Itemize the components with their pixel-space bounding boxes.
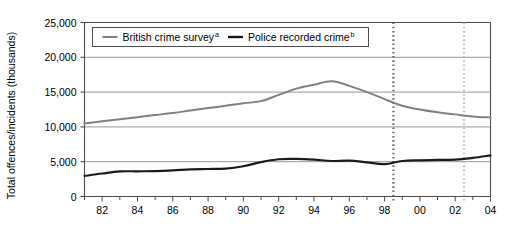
x-tick-label: 04 bbox=[485, 204, 497, 216]
x-tick-label: 88 bbox=[202, 204, 214, 216]
legend-footnote-2: b bbox=[351, 31, 355, 38]
legend-footnote-1: a bbox=[215, 31, 219, 38]
x-tick-label: 02 bbox=[449, 204, 461, 216]
y-tick-label: 0 bbox=[71, 191, 77, 203]
y-axis-title: Total offences/incidents (thousands) bbox=[5, 32, 17, 199]
series-line-1 bbox=[85, 81, 491, 123]
x-tick-label: 94 bbox=[308, 204, 320, 216]
y-tick-label: 10,000 bbox=[44, 121, 76, 133]
y-tick-label: 20,000 bbox=[44, 51, 76, 63]
x-tick-label: 82 bbox=[96, 204, 108, 216]
legend-label-1: British crime survey bbox=[123, 31, 215, 43]
x-tick-label: 92 bbox=[273, 204, 285, 216]
x-tick-label: 96 bbox=[343, 204, 355, 216]
y-tick-label: 25,000 bbox=[44, 17, 76, 29]
series-line-2 bbox=[85, 155, 491, 176]
chart-container: 05,00010,00015,00020,00025,0008284868890… bbox=[0, 0, 513, 237]
x-tick-label: 90 bbox=[238, 204, 250, 216]
x-tick-label: 98 bbox=[379, 204, 391, 216]
x-tick-label: 86 bbox=[167, 204, 179, 216]
line-chart: 05,00010,00015,00020,00025,0008284868890… bbox=[0, 0, 513, 237]
x-tick-label: 00 bbox=[414, 204, 426, 216]
legend-label-2: Police recorded crime bbox=[248, 31, 350, 43]
y-tick-label: 15,000 bbox=[44, 86, 76, 98]
y-tick-label: 5,000 bbox=[50, 156, 76, 168]
x-tick-label: 84 bbox=[132, 204, 144, 216]
